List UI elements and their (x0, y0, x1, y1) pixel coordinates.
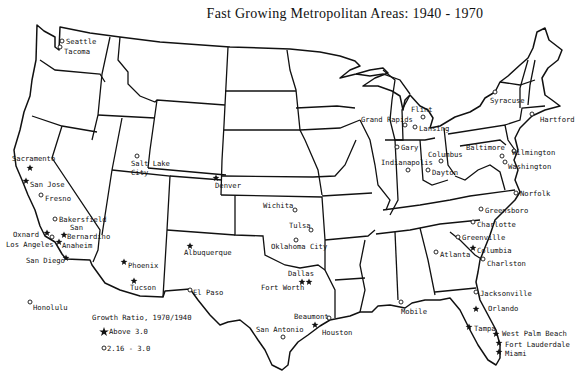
city-label: Honolulu (33, 303, 68, 312)
circle-icon (456, 235, 460, 239)
city-label: Baltimore (466, 143, 505, 152)
city-seattle: Seattle (60, 37, 96, 46)
legend-label-range: 2.16 - 3.0 (107, 344, 150, 353)
us-map: SeattleTacomaSacramentoSan JoseFresnoBak… (0, 0, 580, 391)
city-label: Syracuse (490, 96, 525, 105)
city-label: Tulsa (289, 221, 311, 230)
city-label: Albuquerque (184, 248, 232, 257)
city-lansing: Lansing (413, 124, 449, 133)
city-label: Tacoma (64, 47, 90, 56)
city-label: Seattle (66, 37, 96, 46)
city-label: San (70, 223, 83, 232)
city-greenville: Greenville (456, 233, 505, 242)
city-label: San Antonio (256, 325, 304, 334)
city-charlotte: Charlotte (471, 220, 516, 229)
city-label: Hartford (540, 115, 575, 124)
city-honolulu: Honolulu (28, 300, 68, 312)
circle-icon (53, 217, 57, 221)
circle-icon (102, 346, 106, 350)
circle-icon (481, 257, 485, 261)
city-label: Norfolk (520, 189, 551, 198)
circle-icon (474, 290, 478, 294)
circle-icon (188, 288, 192, 292)
city-wilmington: Wilmington (512, 148, 555, 157)
city-label: Fresno (45, 194, 71, 203)
circle-icon (421, 115, 425, 119)
city-label: City (131, 168, 149, 177)
city-label: Beaumont (294, 312, 329, 321)
legend-item-circle: 2.16 - 3.0 (102, 344, 150, 353)
city-label: Phoenix (128, 261, 159, 270)
legend-title: Growth Ratio, 1970/1940 (92, 313, 192, 322)
city-atlanta: Atlanta (434, 250, 470, 259)
city-label: Greenville (462, 233, 505, 242)
circle-icon (395, 145, 399, 149)
circle-icon (399, 300, 403, 304)
city-label: San Diego (26, 256, 65, 265)
city-label: Flint (411, 105, 433, 114)
city-label: Wichita (263, 201, 293, 210)
city-fort-lauderdale: Fort Lauderdale (496, 339, 570, 349)
city-label: Oxnard (13, 230, 39, 239)
city-label: El Paso (193, 288, 223, 297)
city-label: Mobile (401, 307, 427, 316)
star-icon (99, 327, 109, 336)
city-label: Washington (508, 162, 551, 171)
circle-icon (479, 207, 483, 211)
city-label: Oklahoma City (271, 242, 328, 251)
city-label: Charlotte (477, 220, 516, 229)
circle-icon (439, 159, 443, 163)
city-label: Miami (505, 349, 527, 358)
circle-icon (514, 191, 518, 195)
city-label: Bernardino (67, 232, 110, 241)
legend-label-above: Above 3.0 (109, 327, 148, 336)
city-washington: Washington (503, 160, 551, 171)
city-label: Columbus (428, 150, 463, 159)
city-label: Anaheim (62, 241, 92, 250)
circle-icon (50, 235, 54, 239)
circle-icon (58, 45, 62, 49)
city-beaumont: Beaumont (294, 312, 331, 321)
city-label: Tampa (474, 324, 496, 333)
circle-icon (530, 112, 534, 116)
city-bernardino: Bernardino (61, 231, 111, 241)
city-charlston: Charlston (481, 257, 526, 268)
circle-icon (503, 160, 507, 164)
circle-icon (500, 154, 504, 158)
circle-icon (135, 154, 139, 158)
city-san: San (70, 223, 83, 232)
city-label: West Palm Beach (502, 329, 567, 338)
city-label: Indianapolis (381, 158, 433, 167)
city-label: Dallas (288, 269, 314, 278)
city-label: Fort Lauderdale (505, 340, 570, 349)
circle-icon (28, 300, 32, 304)
circle-icon (493, 90, 497, 94)
city-label: Lansing (419, 124, 449, 133)
circle-icon (426, 168, 430, 172)
circle-icon (434, 250, 438, 254)
city-anaheim: Anaheim (56, 238, 93, 250)
city-norfolk: Norfolk (514, 189, 551, 198)
legend: Growth Ratio, 1970/1940 Above 3.0 2.16 -… (92, 313, 192, 353)
city-label: Wilmington (512, 148, 555, 157)
city-jacksonville: Jacksonville (474, 289, 532, 298)
city-west-palm-beach: West Palm Beach (493, 329, 567, 338)
city-label: Greensboro (485, 206, 528, 215)
legend-item-star: Above 3.0 (99, 327, 148, 336)
city-label: Jacksonville (480, 289, 532, 298)
city-label: San Jose (30, 180, 65, 189)
city-label: Charlston (487, 259, 526, 268)
city-label: Columbia (477, 246, 512, 255)
city-label: Houston (322, 328, 352, 337)
city-label: Los Angeles (6, 240, 54, 249)
city-label: Atlanta (440, 250, 470, 259)
city-label: Sacramento (12, 154, 55, 163)
circle-icon (281, 335, 285, 339)
city-label: Denver (215, 181, 242, 190)
city-el-paso: El Paso (188, 288, 223, 297)
city-label: Grand Rapids (361, 115, 413, 124)
city-label: Orlando (488, 304, 518, 313)
circle-icon (293, 208, 297, 212)
circle-icon (60, 39, 64, 43)
city-label: Gary (401, 143, 419, 152)
